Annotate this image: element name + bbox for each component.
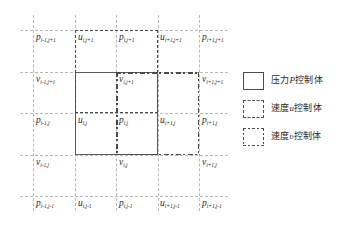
legend-pressure-label: 压力P控制体 <box>271 73 323 86</box>
node-label-u-i-jp1: ui,j+1 <box>78 33 93 44</box>
node-label-p-i-jm1: pi,j-1 <box>119 199 132 210</box>
node-subscript: i+1,j <box>165 120 176 126</box>
node-subscript: i+1,j-1 <box>207 203 222 209</box>
node-subscript: i-1,j <box>40 162 49 168</box>
node-subscript: i-1,j+1 <box>41 37 56 43</box>
node-subscript: i,j-1 <box>124 203 133 209</box>
node-label-v-ip1-jp1: vi+1,j+1 <box>202 75 223 86</box>
diagram-canvas: pi-1,j+1ui,j+1pi,j+1ui+1,j+1pi+1,j+1vi-1… <box>0 0 345 226</box>
swatch-edge-top <box>243 128 264 129</box>
node-subscript: i-1,j <box>41 120 50 126</box>
node-label-p-ip1-j: pi+1,j <box>202 116 217 127</box>
node-label-v-im1-j: vi-1,j <box>36 158 49 169</box>
grid-line-horizontal-3 <box>20 155 228 156</box>
node-label-p-im1-jm1: pi-1,j-1 <box>36 199 54 210</box>
node-subscript: i+1,j-1 <box>165 203 180 209</box>
legend-suffix: 控制体 <box>294 131 322 141</box>
legend-velocity-u-swatch <box>243 100 264 118</box>
node-label-p-ip1-jm1: pi+1,j-1 <box>202 199 222 210</box>
node-label-u-ip1-j: ui+1,j <box>160 116 175 127</box>
legend-velocity-v: 速度υ控制体 <box>243 126 343 154</box>
cv-edge-right <box>198 72 200 155</box>
node-subscript: i-1,j-1 <box>41 203 54 209</box>
node-label-p-ip1-jp1: pi+1,j+1 <box>202 33 224 44</box>
node-label-p-im1-jp1: pi-1,j+1 <box>36 33 56 44</box>
node-subscript: i,j <box>83 120 87 126</box>
legend-pressure: 压力P控制体 <box>243 70 343 98</box>
node-subscript: i+1,j+1 <box>165 37 182 43</box>
legend-prefix: 压力 <box>271 75 289 85</box>
node-subscript: i+1,j+1 <box>206 79 223 85</box>
legend-velocity-u: 速度u控制体 <box>243 98 343 126</box>
legend-suffix: 控制体 <box>295 75 323 85</box>
node-label-u-ip1-jp1: ui+1,j+1 <box>160 33 182 44</box>
node-label-v-ip1-j: vi+1,j <box>202 158 217 169</box>
node-label-u-ip1-jm1: ui+1,j-1 <box>160 199 180 210</box>
node-label-u-i-jm1: ui,j-1 <box>78 199 91 210</box>
legend-velocity-v-label: 速度υ控制体 <box>271 129 321 142</box>
node-label-p-im1-j: pi-1,j <box>36 116 49 127</box>
node-subscript: i+1,j <box>207 120 218 126</box>
cv-edge-top <box>116 72 199 74</box>
swatch-edge-left <box>243 128 244 146</box>
node-subscript: i+1,j+1 <box>207 37 224 43</box>
node-subscript: i,j <box>123 162 127 168</box>
legend-pressure-swatch <box>243 72 264 90</box>
node-label-p-i-j: pi,j <box>119 116 128 127</box>
swatch-edge-bottom <box>243 145 264 146</box>
cv-edge-bottom <box>116 154 199 156</box>
legend-velocity-v-swatch <box>243 128 264 146</box>
node-subscript: i,j-1 <box>83 203 92 209</box>
node-label-p-i-jp1: pi,j+1 <box>119 33 134 44</box>
cv-edge-left <box>116 72 118 155</box>
legend-velocity-u-label: 速度u控制体 <box>271 101 322 114</box>
node-subscript: i,j+1 <box>124 37 135 43</box>
node-subscript: i,j+1 <box>83 37 94 43</box>
node-label-v-i-jp1: vi,j+1 <box>119 75 134 86</box>
node-subscript: i-1,j+1 <box>40 79 55 85</box>
grid-line-horizontal-4 <box>20 196 228 197</box>
node-subscript: i,j+1 <box>123 79 134 85</box>
node-label-u-i-j: ui,j <box>78 116 87 127</box>
node-subscript: i,j <box>124 120 128 126</box>
legend: 压力P控制体速度u控制体速度υ控制体 <box>243 70 343 154</box>
node-label-v-i-j: vi,j <box>119 158 127 169</box>
swatch-edge-right <box>263 128 264 146</box>
legend-suffix: 控制体 <box>294 103 322 113</box>
legend-prefix: 速度 <box>271 131 289 141</box>
legend-prefix: 速度 <box>271 103 289 113</box>
node-subscript: i+1,j <box>206 162 217 168</box>
node-label-v-im1-jp1: vi-1,j+1 <box>36 75 55 86</box>
